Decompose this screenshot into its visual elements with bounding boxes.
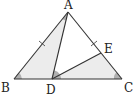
point-label-c: C <box>124 82 133 94</box>
triangle-diagram <box>0 0 139 99</box>
point-label-b: B <box>1 82 10 94</box>
point-label-d: D <box>46 84 56 96</box>
point-label-e: E <box>104 43 113 55</box>
point-label-a: A <box>64 0 73 11</box>
